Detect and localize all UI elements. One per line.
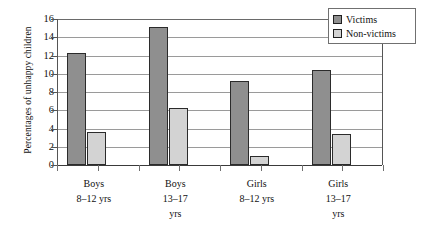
legend-item-non-victims[interactable]: Non-victims	[333, 26, 411, 40]
bar-victims-1	[149, 27, 168, 165]
x-category-label-line: Girls	[296, 176, 380, 191]
chart-legend: VictimsNon-victims	[328, 8, 416, 44]
bar-chart: Percentages of unhappy children 02468101…	[0, 0, 422, 238]
x-category-label-1: Boys13–17yrs	[133, 176, 217, 221]
legend-swatch-icon	[333, 15, 342, 24]
x-category-label-line: 8–12 yrs	[52, 191, 136, 206]
x-category-label-line: 13–17	[296, 191, 380, 206]
x-tick-mark-4	[220, 165, 221, 171]
bar-nonvictims-1	[169, 108, 188, 165]
bar-victims-3	[312, 70, 331, 165]
bar-nonvictims-0	[87, 132, 106, 165]
legend-item-victims[interactable]: Victims	[333, 12, 411, 26]
legend-swatch-icon	[333, 29, 342, 38]
legend-label: Victims	[346, 14, 377, 25]
x-category-label-2: Girls8–12 yrs	[215, 176, 299, 206]
x-category-label-line: Boys	[133, 176, 217, 191]
x-tick-mark-3	[179, 165, 180, 171]
legend-label: Non-victims	[346, 28, 396, 39]
x-tick-mark-7	[342, 165, 343, 171]
x-category-label-3: Girls13–17yrs	[296, 176, 380, 221]
x-category-label-line: 13–17	[133, 191, 217, 206]
x-tick-mark-1	[98, 165, 99, 171]
x-tick-mark-2	[139, 165, 140, 171]
x-category-label-0: Boys8–12 yrs	[52, 176, 136, 206]
x-tick-mark-0	[57, 165, 58, 171]
x-category-label-line: 8–12 yrs	[215, 191, 299, 206]
bar-nonvictims-3	[332, 134, 351, 165]
x-tick-mark-6	[302, 165, 303, 171]
x-category-label-line: Girls	[215, 176, 299, 191]
x-category-label-line: yrs	[296, 206, 380, 221]
x-category-label-line: yrs	[133, 206, 217, 221]
x-category-label-line: Boys	[52, 176, 136, 191]
x-tick-mark-5	[261, 165, 262, 171]
x-tick-mark-8	[383, 165, 384, 171]
bar-victims-2	[230, 81, 249, 165]
bar-nonvictims-2	[250, 156, 269, 165]
bar-victims-0	[67, 53, 86, 165]
